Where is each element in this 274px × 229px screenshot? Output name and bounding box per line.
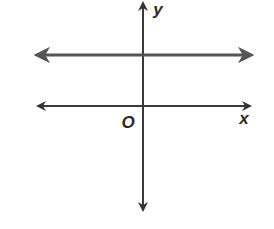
origin-label: O xyxy=(121,113,134,132)
y-axis-label: y xyxy=(152,0,164,19)
coordinate-graph: x y O xyxy=(0,0,274,229)
axes xyxy=(38,3,250,210)
x-axis-label: x xyxy=(238,109,250,128)
